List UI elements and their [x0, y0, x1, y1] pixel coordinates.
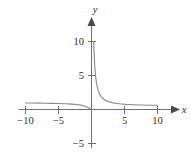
x-tick-label-neg10: −10 [17, 115, 33, 126]
x-tick-label-pos10: 10 [152, 115, 163, 126]
hyperbola-right-branch [94, 42, 158, 106]
y-tick-label-neg5: −5 [73, 138, 84, 149]
x-axis-arrow-icon [171, 106, 180, 114]
y-axis-label: y [92, 4, 98, 15]
coordinate-plane: −10 −5 5 10 10 5 −5 x y [0, 0, 191, 158]
x-tick-label-pos5: 5 [122, 115, 127, 126]
x-tick-label-neg5: −5 [53, 115, 64, 126]
y-tick-label-pos10: 10 [74, 36, 85, 47]
y-axis-arrow-icon [88, 17, 96, 26]
y-tick-label-pos5: 5 [79, 70, 84, 81]
graph-figure: −10 −5 5 10 10 5 −5 x y [0, 0, 191, 158]
x-axis-label: x [181, 104, 187, 115]
